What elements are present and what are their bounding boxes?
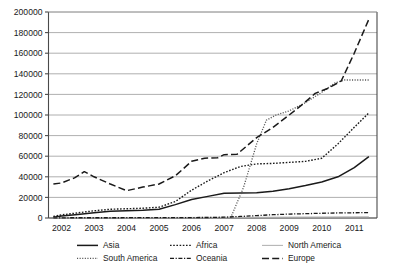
x-axis-tick-label: 2011 — [345, 223, 364, 233]
y-axis-tick-label: 80000 — [19, 131, 43, 141]
gridlines-group — [45, 12, 377, 218]
x-axis-tick-label: 2010 — [312, 223, 331, 233]
series-line-africa — [53, 113, 368, 217]
x-axis-tick-label: 2008 — [247, 223, 266, 233]
y-axis-tick-label: 0 — [38, 213, 43, 223]
y-axis-tick-label: 200000 — [14, 7, 43, 17]
x-axis-tick-label: 2005 — [150, 223, 169, 233]
y-axis-tick-label: 60000 — [19, 151, 43, 161]
x-axis-tick-label: 2003 — [84, 223, 103, 233]
y-axis-tick-label: 160000 — [14, 48, 43, 58]
y-axis-tick-label: 140000 — [14, 69, 43, 79]
series-line-europe — [53, 19, 368, 190]
y-axis-labels-group: 0200004000060000800001000001200001400001… — [14, 7, 43, 223]
y-axis-tick-label: 100000 — [14, 110, 43, 120]
line-chart: 0200004000060000800001000001200001400001… — [0, 0, 394, 276]
series-group — [53, 19, 368, 218]
legend-group: AsiaAfricaNorth AmericaSouth AmericaOcea… — [77, 240, 341, 263]
y-axis-tick-label: 20000 — [19, 193, 43, 203]
x-axis-tick-label: 2002 — [52, 223, 71, 233]
x-axis-labels-group: 2002200320042005200620072008200920102011 — [52, 223, 364, 233]
legend-label-europe: Europe — [288, 253, 315, 263]
y-axis-tick-label: 120000 — [14, 90, 43, 100]
chart-canvas: 0200004000060000800001000001200001400001… — [0, 0, 394, 276]
legend-label-africa: Africa — [196, 240, 218, 250]
legend-label-asia: Asia — [103, 240, 120, 250]
x-axis-tick-label: 2004 — [117, 223, 136, 233]
series-line-asia — [53, 157, 368, 217]
x-axis-tick-label: 2007 — [215, 223, 234, 233]
x-axis-tick-label: 2009 — [280, 223, 299, 233]
y-axis-tick-label: 40000 — [19, 172, 43, 182]
x-axis-tick-label: 2006 — [182, 223, 201, 233]
y-axis-tick-label: 180000 — [14, 28, 43, 38]
legend-label-oceania: Oceania — [196, 253, 228, 263]
legend-label-north-america: North America — [288, 240, 341, 250]
legend-label-south-america: South America — [103, 253, 158, 263]
